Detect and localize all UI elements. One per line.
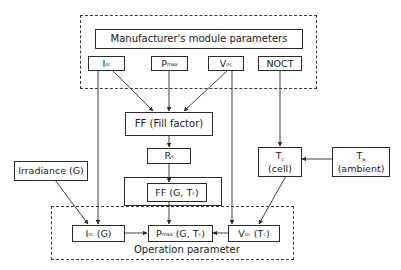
node-pmax-subscript: max (167, 59, 178, 69)
node-isc: Isc (88, 56, 125, 71)
node-pmax-gtc: Pmax (G, Tc) (148, 225, 213, 242)
node-tc-cell: Tc (cell) (258, 147, 302, 177)
node-noct-label: NOCT (266, 59, 293, 69)
manufacturer-title-box: Manufacturer's module parameters (95, 29, 303, 49)
node-rs-subscript: s (171, 151, 174, 161)
node-irradiance-label: Irradiance (G) (18, 166, 84, 176)
node-ta-ambient: Ta (ambient) (332, 147, 390, 177)
node-fill-factor-label: FF (Fill factor) (135, 119, 203, 129)
manufacturer-parameters-group (80, 15, 317, 89)
manufacturer-title: Manufacturer's module parameters (111, 34, 288, 44)
node-irradiance: Irradiance (G) (14, 161, 88, 181)
node-isc-subscript: sc (105, 59, 110, 69)
node-noct: NOCT (258, 56, 302, 71)
node-ff-gtc-tail: ) (195, 188, 199, 198)
node-voc-tc-tail: (T (251, 229, 264, 239)
node-rs-label: R (164, 151, 171, 161)
node-ff-gtc: FF (G, Tc) (147, 183, 207, 202)
node-voc-subscript: oc (226, 59, 232, 69)
node-voc: Voc (208, 56, 244, 71)
node-pmax-gtc-tail2: ) (201, 229, 205, 239)
node-ta-caption: (ambient) (338, 164, 385, 174)
node-pmax-gtc-subscript: max (162, 229, 173, 239)
node-pmax-gtc-tail: (G, T (173, 229, 199, 239)
node-isc-g-tail: (G) (94, 229, 112, 239)
node-fill-factor: FF (Fill factor) (125, 112, 213, 136)
node-ta-subscript: a (362, 156, 365, 162)
node-pmax: Pmax (151, 56, 188, 71)
pv-parameter-flow-diagram: Manufacturer's module parameters Isc Pma… (0, 0, 401, 270)
node-rs: Rs (147, 148, 191, 164)
node-isc-g: Isc (G) (72, 225, 125, 242)
node-tc-subscript: c (282, 156, 285, 162)
node-voc-tc: Voc (Tc) (228, 225, 280, 242)
node-voc-tc-tail2: ) (266, 229, 270, 239)
node-ff-gtc-label: FF (G, T (155, 188, 192, 198)
node-tc-caption: (cell) (268, 164, 292, 174)
operation-parameter-label: Operation parameter (134, 244, 240, 255)
